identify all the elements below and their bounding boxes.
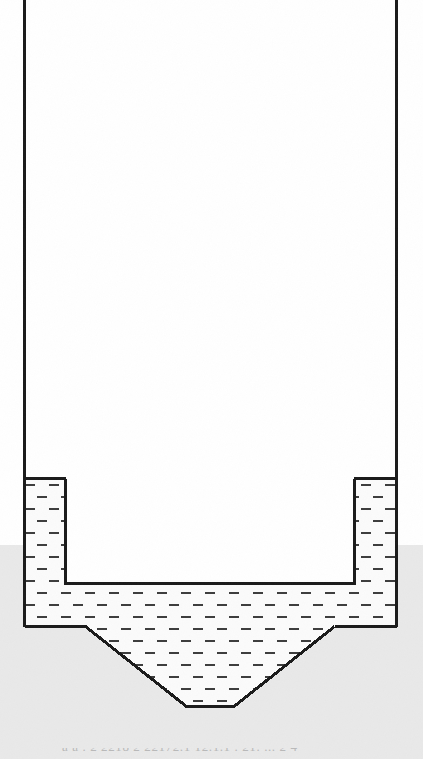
- vessel-headspace: [26, 0, 395, 584]
- vessel-cross-section-figure: [0, 0, 423, 759]
- figure-sheet: a a . 2 2218 2 22172.1 12.1.1 . 21. ... …: [0, 0, 423, 759]
